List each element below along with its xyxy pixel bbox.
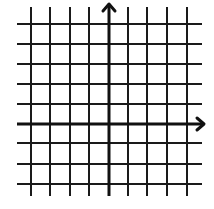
coordinate-plane	[0, 0, 214, 209]
